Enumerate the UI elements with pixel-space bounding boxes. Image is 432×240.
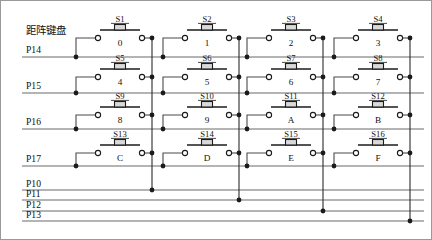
key-label-7: 7 xyxy=(376,77,381,87)
switch-ref-s11: S11 xyxy=(284,91,297,101)
row-tap-s13 xyxy=(74,164,79,169)
column-tap-s10 xyxy=(237,113,242,118)
push-button-cap-icon[interactable] xyxy=(373,140,384,146)
key-label-d: D xyxy=(204,153,211,163)
push-button-cap-icon[interactable] xyxy=(115,64,126,70)
push-button-cap-icon[interactable] xyxy=(115,140,126,146)
column-bus-tap-p10 xyxy=(150,188,155,193)
column-bus-tap-p11 xyxy=(237,198,242,203)
key-label-c: C xyxy=(117,153,123,163)
switch-terminal-right xyxy=(310,112,315,117)
push-button-cap-icon[interactable] xyxy=(286,25,297,31)
switch-terminal-left xyxy=(95,112,100,117)
switch-ref-s3: S3 xyxy=(286,14,295,24)
column-tap-s12 xyxy=(408,113,413,118)
column-tap-s11 xyxy=(321,113,326,118)
switch-terminal-right xyxy=(397,112,402,117)
wire-s15-to-row xyxy=(247,153,269,166)
key-label-f: F xyxy=(375,153,380,163)
push-button-cap-icon[interactable] xyxy=(115,102,126,108)
push-button-cap-icon[interactable] xyxy=(115,25,126,31)
switch-ref-s7: S7 xyxy=(286,53,296,63)
row-tap-s7 xyxy=(245,91,250,96)
port-label-p16: P16 xyxy=(26,116,41,127)
row-tap-s8 xyxy=(332,91,337,96)
row-tap-s16 xyxy=(332,164,337,169)
row-tap-s11 xyxy=(245,127,250,132)
switch-ref-s8: S8 xyxy=(373,53,382,63)
row-bus-group xyxy=(22,57,424,166)
schematic-page: 距阵键盘P14P15P16P17P10P11P12P13S10S21S32S43… xyxy=(0,0,432,240)
row-tap-s3 xyxy=(245,55,250,60)
row-tap-s6 xyxy=(161,91,166,96)
column-tap-s5 xyxy=(150,75,155,80)
key-label-4: 4 xyxy=(118,77,123,87)
wire-s16-to-row xyxy=(334,153,356,166)
port-label-p14: P14 xyxy=(26,44,41,55)
switch-terminal-right xyxy=(226,35,231,40)
key-label-3: 3 xyxy=(376,38,381,48)
switch-terminal-right xyxy=(226,74,231,79)
push-button-cap-icon[interactable] xyxy=(286,64,297,70)
push-button-cap-icon[interactable] xyxy=(286,140,297,146)
column-tap-s15 xyxy=(321,151,326,156)
wire-s7-to-row xyxy=(247,77,269,93)
wire-s11-to-row xyxy=(247,115,269,129)
switch-ref-s6: S6 xyxy=(202,53,212,63)
switch-terminal-right xyxy=(397,150,402,155)
switch-ref-s9: S9 xyxy=(115,91,124,101)
switch-terminal-left xyxy=(353,35,358,40)
push-button-cap-icon[interactable] xyxy=(373,64,384,70)
push-button-cap-icon[interactable] xyxy=(202,140,213,146)
wire-s9-to-row xyxy=(76,115,98,129)
switch-terminal-right xyxy=(310,35,315,40)
wire-s10-to-row xyxy=(163,115,185,129)
key-label-5: 5 xyxy=(205,77,210,87)
column-tap-s4 xyxy=(408,36,413,41)
push-button-cap-icon[interactable] xyxy=(286,102,297,108)
wire-s6-to-row xyxy=(163,77,185,93)
wire-s13-to-row xyxy=(76,153,98,166)
push-button-cap-icon[interactable] xyxy=(373,25,384,31)
row-tap-s1 xyxy=(74,55,79,60)
switch-ref-s13: S13 xyxy=(113,129,126,139)
key-label-6: 6 xyxy=(289,77,294,87)
switch-terminal-right xyxy=(226,112,231,117)
switch-terminal-left xyxy=(95,74,100,79)
column-bus-tap-p13 xyxy=(408,219,413,224)
switch-ref-s16: S16 xyxy=(371,129,385,139)
switch-terminal-right xyxy=(139,112,144,117)
wire-s3-to-row xyxy=(247,38,269,57)
diagram-title: 距阵键盘 xyxy=(26,24,66,36)
column-tap-s6 xyxy=(237,75,242,80)
push-button-cap-icon[interactable] xyxy=(202,102,213,108)
switch-terminal-left xyxy=(182,74,187,79)
key-label-1: 1 xyxy=(205,38,210,48)
key-label-b: B xyxy=(375,115,381,125)
switch-ref-s1: S1 xyxy=(115,14,124,24)
push-button-cap-icon[interactable] xyxy=(202,25,213,31)
row-tap-s10 xyxy=(161,127,166,132)
column-bus-tap-p12 xyxy=(321,209,326,214)
switch-terminal-right xyxy=(139,74,144,79)
column-tap-s14 xyxy=(237,151,242,156)
row-tap-s14 xyxy=(161,164,166,169)
column-tap-s1 xyxy=(150,36,155,41)
switch-ref-s10: S10 xyxy=(200,91,213,101)
switch-terminal-right xyxy=(397,74,402,79)
column-tap-s16 xyxy=(408,151,413,156)
row-tap-s4 xyxy=(332,55,337,60)
column-bus-group xyxy=(22,190,424,221)
switch-terminal-left xyxy=(95,150,100,155)
switch-terminal-left xyxy=(182,150,187,155)
column-tap-s3 xyxy=(321,36,326,41)
column-tap-s7 xyxy=(321,75,326,80)
port-label-p17: P17 xyxy=(26,153,41,164)
push-button-cap-icon[interactable] xyxy=(202,64,213,70)
push-button-cap-icon[interactable] xyxy=(373,102,384,108)
switch-terminal-right xyxy=(226,150,231,155)
column-tap-s8 xyxy=(408,75,413,80)
switch-terminal-right xyxy=(139,35,144,40)
switch-terminal-right xyxy=(310,74,315,79)
row-tap-s12 xyxy=(332,127,337,132)
